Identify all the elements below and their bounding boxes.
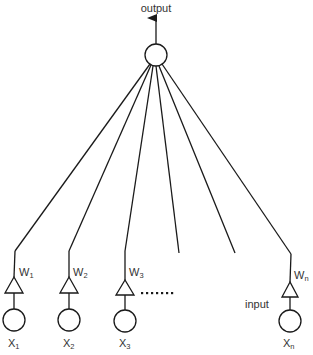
connections xyxy=(15,64,291,254)
input-label-xn: Xn xyxy=(283,337,295,351)
ellipsis-dots xyxy=(141,292,173,294)
input-neuron-x2 xyxy=(58,309,80,331)
weight-label-wn: Wn xyxy=(294,269,309,283)
input-label-x2: X2 xyxy=(63,337,75,351)
weight-triangle-icon xyxy=(5,277,23,293)
weight-triangle-icon xyxy=(282,282,298,297)
input-unit-x1: W1 X1 xyxy=(3,251,34,351)
input-label-x1: X1 xyxy=(8,337,20,351)
input-label: input xyxy=(245,298,269,310)
weight-triangle-icon xyxy=(60,277,78,293)
input-unit-x2: W2 X2 xyxy=(58,251,88,351)
weight-label-w2: W2 xyxy=(73,266,88,280)
input-neuron-xn xyxy=(279,310,301,332)
weight-label-w3: W3 xyxy=(129,266,144,280)
input-unit-x3: W3 X3 xyxy=(114,251,144,351)
input-unit-xn: Wn Xn xyxy=(279,254,309,351)
output-neuron xyxy=(145,44,167,66)
input-label-x3: X3 xyxy=(119,337,131,351)
connection-xn xyxy=(162,64,291,254)
weight-triangle-icon xyxy=(116,280,134,295)
input-neuron-x1 xyxy=(3,309,25,331)
weight-label-w1: W1 xyxy=(19,266,34,280)
connection-dangling-5 xyxy=(159,66,235,253)
connection-dangling-4 xyxy=(156,66,179,253)
input-neuron-x3 xyxy=(114,310,136,332)
perceptron-diagram: output W1 X1 W2 X2 W3 X3 xyxy=(0,0,313,355)
output-label: output xyxy=(141,2,172,14)
